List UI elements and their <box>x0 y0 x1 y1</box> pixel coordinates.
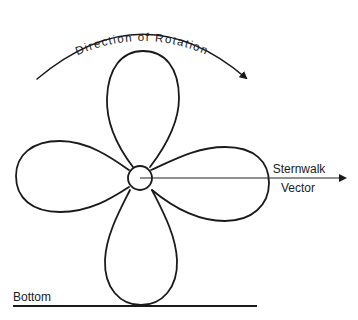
blade-top <box>107 51 179 167</box>
blade-right <box>151 147 269 221</box>
bottom-label: Bottom <box>13 290 51 304</box>
blade-left <box>16 141 129 212</box>
sternwalk-label: Sternwalk <box>273 162 327 176</box>
rotation-label: Direction of Rotation <box>74 31 211 57</box>
vector-label: Vector <box>281 181 315 195</box>
propeller-diagram: Direction of Rotation Sternwalk Vector B… <box>0 0 358 320</box>
blade-bottom <box>105 190 177 305</box>
